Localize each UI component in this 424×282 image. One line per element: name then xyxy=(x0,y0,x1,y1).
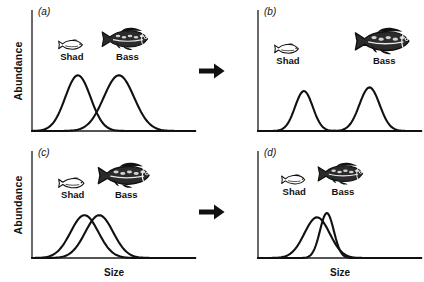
species-icons-d: ShadBass xyxy=(281,162,368,196)
shad-label: Shad xyxy=(283,187,306,197)
bass-curve xyxy=(258,213,421,258)
shad-species-item: Shad xyxy=(281,174,307,196)
bass-curve xyxy=(32,75,195,131)
arrow-cell-bottom xyxy=(198,141,226,282)
bass-fish-icon xyxy=(101,27,153,51)
panel-cell-c: (c)AbundanceSizeShadBass xyxy=(0,141,198,282)
bass-label: Bass xyxy=(116,52,139,62)
shad-fish-icon xyxy=(274,43,301,55)
panel-label-b: (b) xyxy=(264,6,276,17)
shad-fish-icon xyxy=(58,177,87,190)
plot-a xyxy=(0,0,198,141)
species-icons-a: ShadBass xyxy=(58,27,153,62)
panel-c: (c)AbundanceSizeShadBass xyxy=(0,141,198,282)
bass-species-item: Bass xyxy=(354,27,415,66)
right-arrow-icon xyxy=(199,204,225,220)
panel-label-a: (a) xyxy=(38,6,50,17)
figure-panels: (a)AbundanceShadBass (b)ShadBass (c)Abun… xyxy=(0,0,424,282)
bass-species-item: Bass xyxy=(97,162,155,199)
shad-label: Shad xyxy=(60,52,83,62)
shad-curve xyxy=(258,91,421,131)
bass-fish-icon xyxy=(317,162,368,186)
right-arrow-icon xyxy=(199,63,225,79)
bass-species-item: Bass xyxy=(317,162,368,196)
plot-b xyxy=(226,0,424,141)
shad-fish-icon xyxy=(58,39,85,51)
bass-label: Bass xyxy=(332,187,355,197)
bass-label: Bass xyxy=(115,190,138,200)
panel-cell-a: (a)AbundanceShadBass xyxy=(0,0,198,141)
species-icons-b: ShadBass xyxy=(274,27,415,66)
panel-a: (a)AbundanceShadBass xyxy=(0,0,198,141)
panel-cell-d: (d)SizeShadBass xyxy=(226,141,424,282)
y-axis-label: Abundance xyxy=(12,157,24,253)
bass-curve xyxy=(258,87,421,131)
shad-fish-icon xyxy=(281,174,307,186)
bass-fish-icon xyxy=(354,27,415,55)
y-axis-label: Abundance xyxy=(12,23,24,119)
bass-species-item: Bass xyxy=(101,27,153,62)
x-axis-label: Size xyxy=(32,267,196,278)
species-icons-c: ShadBass xyxy=(58,162,155,199)
shad-curve xyxy=(32,215,195,258)
shad-curve xyxy=(32,75,195,131)
bass-label: Bass xyxy=(373,56,396,66)
shad-species-item: Shad xyxy=(58,39,85,61)
panel-d: (d)SizeShadBass xyxy=(226,141,424,282)
x-axis-label: Size xyxy=(258,267,422,278)
arrow-cell-top xyxy=(198,0,226,141)
shad-label: Shad xyxy=(61,190,84,200)
bass-fish-icon xyxy=(97,162,155,189)
panel-label-c: (c) xyxy=(38,147,50,158)
panel-cell-b: (b)ShadBass xyxy=(226,0,424,141)
panel-b: (b)ShadBass xyxy=(226,0,424,141)
shad-label: Shad xyxy=(276,56,299,66)
shad-species-item: Shad xyxy=(58,177,87,200)
shad-species-item: Shad xyxy=(274,43,301,65)
panel-label-d: (d) xyxy=(264,147,276,158)
